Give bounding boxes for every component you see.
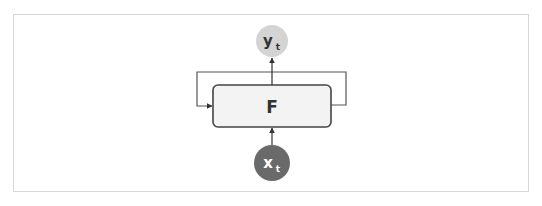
- input-node: x t: [254, 145, 290, 181]
- output-label: y: [263, 32, 273, 50]
- input-subscript: t: [276, 164, 281, 174]
- output-node: y t: [256, 25, 288, 57]
- function-label: F: [266, 97, 278, 117]
- rnn-diagram: F y t x t: [0, 0, 542, 206]
- function-node: F: [213, 85, 331, 127]
- input-label: x: [263, 154, 273, 172]
- output-subscript: t: [276, 42, 281, 52]
